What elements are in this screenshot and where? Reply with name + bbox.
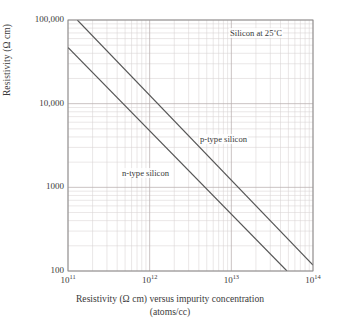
x-axis-title: Resistivity (Ω cm) versus impurity conce… (0, 292, 340, 318)
x-axis-title-line2: (atoms/cc) (0, 305, 340, 318)
y-axis-title: Resistivity (Ω cm) (2, 0, 12, 120)
y-tick-label: 100 (20, 265, 64, 275)
x-tick-label: 1013 (224, 275, 239, 285)
plot-canvas (0, 0, 340, 330)
x-tick-label: 1011 (60, 275, 75, 285)
annotation-n-type-silicon: n-type silicon (121, 168, 170, 178)
y-tick-label: 100,000 (20, 14, 64, 24)
annotation-p-type-silicon: p-type silicon (199, 134, 248, 144)
x-axis-title-line1: Resistivity (Ω cm) versus impurity conce… (0, 292, 340, 305)
y-tick-label: 10,000 (20, 98, 64, 108)
annotation-silicon-temperature: Silicon at 25˚C (229, 28, 283, 38)
x-tick-label: 1012 (142, 275, 157, 285)
x-tick-label: 1014 (305, 275, 320, 285)
resistivity-vs-impurity-chart: Resistivity (Ω cm) 100,00010,0001000100 … (0, 0, 340, 330)
plot-background (68, 20, 313, 271)
y-tick-label: 1000 (20, 181, 64, 191)
